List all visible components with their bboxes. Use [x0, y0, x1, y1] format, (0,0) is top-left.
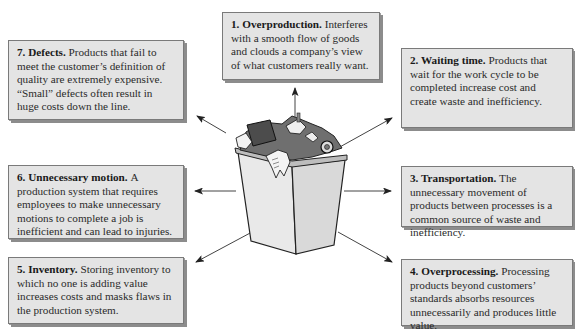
arrow-down-right: [338, 232, 392, 262]
waste-heading: 7. Defects.: [17, 46, 69, 58]
waste-heading: 1. Overproduction.: [231, 18, 325, 30]
waste-heading: 4. Overprocessing.: [410, 265, 501, 277]
waste-heading: 5. Inventory.: [17, 263, 80, 275]
waste-box-overprocessing: 4. Overprocessing. Processing products b…: [401, 259, 573, 326]
waste-heading: 2. Waiting time.: [410, 54, 488, 66]
waste-heading: 3. Transportation.: [410, 172, 499, 184]
waste-box-defects: 7. Defects. Products that fail to meet t…: [8, 40, 184, 120]
waste-box-transportation: 3. Transportation. The unnecessary movem…: [401, 166, 573, 227]
waste-box-unnecessary-motion: 6. Unnecessary motion. A production syst…: [8, 165, 184, 239]
arrow-down-left: [196, 232, 252, 262]
arrow-up-left: [197, 116, 226, 133]
trash-can-icon: [235, 113, 347, 254]
waste-box-overproduction: 1. Overproduction. Interferes with a smo…: [222, 12, 380, 80]
arrow-up-right: [338, 118, 392, 148]
waste-box-waiting-time: 2. Waiting time. Products that wait for …: [401, 48, 573, 128]
waste-heading: 6. Unnecessary motion.: [17, 171, 130, 183]
waste-box-inventory: 5. Inventory. Storing inventory to which…: [8, 257, 184, 324]
